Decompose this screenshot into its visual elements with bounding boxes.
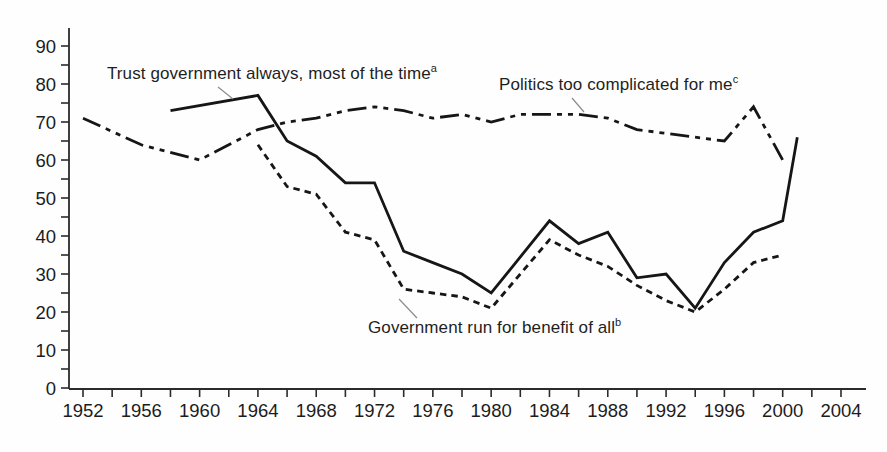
leader-line-politics-too-complicated (572, 98, 584, 112)
y-tick-label: 0 (46, 378, 56, 399)
x-tick-label: 1980 (471, 400, 512, 421)
x-tick-label: 2000 (762, 400, 803, 421)
x-tick-label: 1964 (237, 400, 278, 421)
annotation-politics-too-complicated-text: Politics too complicated for me (499, 75, 733, 94)
chart-plot-area: 0102030405060708090195219561960196419681… (35, 28, 866, 421)
y-tick-label: 20 (35, 302, 56, 323)
footnote-marker-a: a (431, 62, 437, 74)
x-tick-label: 1968 (296, 400, 337, 421)
x-tick-label: 1976 (412, 400, 453, 421)
annotation-government-benefit-text: Government run for benefit of all (368, 318, 615, 337)
y-tick-label: 80 (35, 74, 56, 95)
trust-in-government-chart-figure: 0102030405060708090195219561960196419681… (0, 0, 887, 452)
footnote-marker-c: c (733, 73, 739, 85)
series-line-government-benefit-of-all (258, 145, 783, 312)
annotation-trust-government-text: Trust government always, most of the tim… (107, 64, 431, 83)
y-tick-label: 40 (35, 226, 56, 247)
leader-line-government-benefit (399, 299, 417, 318)
x-tick-label: 1972 (354, 400, 395, 421)
x-tick-label: 1992 (645, 400, 686, 421)
x-tick-label: 1996 (704, 400, 745, 421)
x-tick-label: 1952 (62, 400, 103, 421)
annotation-government-benefit: Government run for benefit of allb (368, 318, 621, 338)
x-tick-label: 1984 (529, 400, 570, 421)
y-tick-label: 50 (35, 188, 56, 209)
y-tick-label: 70 (35, 112, 56, 133)
series-line-politics-too-complicated (83, 107, 783, 160)
y-tick-label: 90 (35, 36, 56, 57)
annotation-politics-too-complicated: Politics too complicated for mec (499, 75, 738, 95)
y-tick-label: 10 (35, 340, 56, 361)
y-tick-label: 30 (35, 264, 56, 285)
x-tick-label: 2004 (820, 400, 861, 421)
annotation-trust-government: Trust government always, most of the tim… (107, 64, 437, 84)
x-tick-label: 1956 (121, 400, 162, 421)
y-tick-label: 60 (35, 150, 56, 171)
x-tick-label: 1960 (179, 400, 220, 421)
footnote-marker-b: b (615, 316, 621, 328)
leader-line-trust-government (218, 87, 233, 99)
x-tick-label: 1988 (587, 400, 628, 421)
